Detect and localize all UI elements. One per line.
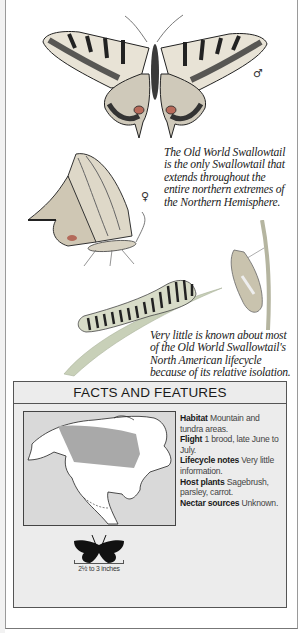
facts-and-features-panel: FACTS AND FEATURES Habitat Mountain and … — [13, 381, 287, 608]
fact-flight: Flight 1 brood, late June to July. — [180, 434, 284, 455]
lifecycle-caption: Very little is known about most of the O… — [150, 330, 296, 380]
north-america-map-icon — [24, 412, 175, 525]
female-swallowtail-illustration — [16, 146, 146, 266]
male-symbol: ♂ — [253, 67, 263, 80]
facts-title: FACTS AND FEATURES — [14, 382, 286, 404]
fact-host-plants: Host plants Sagebrush, parsley, carrot. — [180, 477, 284, 498]
range-map — [23, 411, 176, 526]
fact-nectar-sources: Nectar sources Unknown. — [180, 498, 284, 509]
wingspan-label: 2½ to 3 inches — [72, 565, 126, 572]
wingspan-bracket — [74, 560, 124, 564]
fact-lifecycle-notes: Lifecycle notes Very little information. — [180, 455, 284, 476]
facts-list: Habitat Mountain and tundra areas. Fligh… — [180, 413, 284, 508]
intro-caption: The Old World Swallowtail is the only Sw… — [164, 147, 290, 209]
female-symbol: ♀ — [141, 190, 149, 203]
fact-habitat: Habitat Mountain and tundra areas. — [180, 413, 284, 434]
male-swallowtail-illustration — [39, 12, 271, 144]
